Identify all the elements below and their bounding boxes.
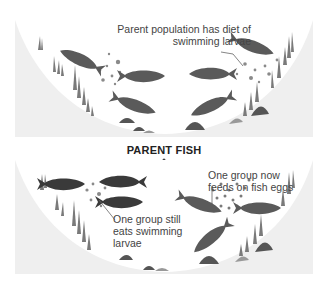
bottom-caption-larvae-group: One group still eats swimming larvae	[113, 213, 203, 249]
bottom-panel-diverged-groups: One group still eats swimming larvae One…	[15, 160, 313, 274]
top-caption: Parent population has diet of swimming l…	[111, 23, 251, 47]
bottom-caption-eggs-group: One group now feeds on fish eggs	[208, 169, 308, 193]
top-panel-parent-population: Parent population has diet of swimming l…	[15, 20, 313, 137]
parent-fish-label: PARENT FISH	[0, 144, 328, 156]
